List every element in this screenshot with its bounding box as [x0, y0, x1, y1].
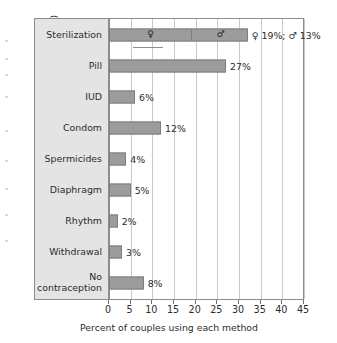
scan-speckle — [5, 214, 8, 216]
x-tick-label-35: 35 — [254, 304, 266, 315]
category-label-iud: IUD — [32, 91, 102, 102]
bar-spermicides — [109, 152, 126, 165]
x-tick-label-15: 15 — [167, 304, 179, 315]
bar-diaphragm — [109, 184, 131, 197]
category-label-pill: Pill — [32, 60, 102, 71]
scan-speckle — [5, 96, 8, 98]
plot-area: Sterilization♀♂♀ 19%; ♂ 13%Pill27%IUD6%C… — [34, 18, 304, 300]
value-label-iud: 6% — [139, 91, 154, 102]
scan-speckle — [5, 74, 8, 76]
x-axis-title: Percent of couples using each method — [34, 322, 304, 333]
bar-sterilization: ♀♂ — [109, 28, 248, 41]
value-label-pill: 27% — [230, 60, 251, 71]
female-symbol-icon: ♀ — [147, 30, 154, 39]
bar-iud — [109, 90, 135, 103]
x-tick-label-25: 25 — [210, 304, 222, 315]
category-label-condom: Condom — [32, 123, 102, 134]
chart-row: Withdrawal3% — [109, 237, 303, 268]
bar-segment-0: ♀ — [110, 29, 192, 40]
category-label-sterilization: Sterilization — [32, 29, 102, 40]
scan-speckle — [5, 160, 8, 162]
chart-row: Spermicides4% — [109, 143, 303, 174]
bar-pill — [109, 59, 226, 72]
category-label-diaphragm: Diaphragm — [32, 185, 102, 196]
bar-segment-1: ♂ — [192, 29, 248, 40]
value-label-rhythm: 2% — [122, 216, 137, 227]
category-label-no-contraception: No contraception — [32, 273, 102, 294]
chart-row: IUD6% — [109, 81, 303, 112]
value-label-diaphragm: 5% — [135, 185, 150, 196]
chart-row: No contraception8% — [109, 268, 303, 299]
value-label-sterilization: ♀ 19%; ♂ 13% — [252, 29, 321, 40]
category-label-rhythm: Rhythm — [32, 216, 102, 227]
value-label-spermicides: 4% — [130, 153, 145, 164]
male-symbol-icon: ♂ — [216, 30, 224, 39]
chart-row: Rhythm2% — [109, 206, 303, 237]
category-label-spermicides: Spermicides — [32, 154, 102, 165]
scan-speckle — [5, 188, 8, 190]
value-label-withdrawal: 3% — [126, 247, 141, 258]
chart-row: Diaphragm5% — [109, 175, 303, 206]
category-label-withdrawal: Withdrawal — [32, 247, 102, 258]
value-label-no-contraception: 8% — [148, 278, 163, 289]
scan-speckle — [5, 240, 8, 242]
x-tick-label-20: 20 — [189, 304, 201, 315]
bar-chart-figure: Methods in decreasing order of effective… — [0, 0, 337, 343]
bar-rhythm — [109, 215, 118, 228]
scan-speckle — [5, 130, 8, 132]
x-tick-label-0: 0 — [105, 304, 111, 315]
chart-row: Pill27% — [109, 50, 303, 81]
scan-speckle — [5, 40, 8, 42]
data-area: Sterilization♀♂♀ 19%; ♂ 13%Pill27%IUD6%C… — [109, 19, 303, 299]
chart-row: Sterilization♀♂♀ 19%; ♂ 13% — [109, 19, 303, 50]
bar-no-contraception — [109, 277, 144, 290]
x-tick-label-30: 30 — [232, 304, 244, 315]
x-tick-label-40: 40 — [275, 304, 287, 315]
chart-row: Condom12% — [109, 112, 303, 143]
scan-artifact-line — [133, 47, 163, 48]
x-tick-label-45: 45 — [297, 304, 309, 315]
scan-speckle — [5, 58, 8, 60]
x-tick-label-5: 5 — [127, 304, 133, 315]
x-tick-label-10: 10 — [145, 304, 157, 315]
bar-withdrawal — [109, 246, 122, 259]
value-label-condom: 12% — [165, 122, 186, 133]
bar-condom — [109, 121, 161, 134]
gridline-45 — [304, 19, 305, 299]
